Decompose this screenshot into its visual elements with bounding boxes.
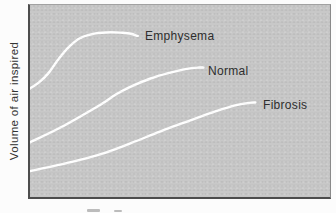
normal-curve — [30, 67, 203, 142]
fibrosis-curve-label: Fibrosis — [263, 98, 307, 112]
cropped-text-fragment — [87, 209, 100, 212]
y-axis-label: Volume of air inspired — [8, 42, 20, 160]
chart-plot-area: Emphysema Normal Fibrosis — [28, 4, 331, 199]
emphysema-curve-label: Emphysema — [145, 29, 214, 43]
fibrosis-curve — [30, 103, 255, 172]
emphysema-curve — [30, 32, 138, 88]
lung-volume-figure: Volume of air inspired Emphysema Normal … — [0, 0, 336, 213]
normal-curve-label: Normal — [208, 64, 248, 78]
cropped-text-fragment — [114, 210, 122, 212]
